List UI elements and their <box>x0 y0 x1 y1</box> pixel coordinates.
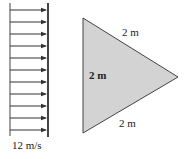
velocity-arrows <box>10 10 46 130</box>
triangle-top-side-label: 2 m <box>122 26 139 38</box>
triangle-left-side-label: 2 m <box>89 69 106 81</box>
velocity-label: 12 m/s <box>12 139 42 151</box>
flow-profile <box>10 3 48 137</box>
triangle-bottom-side-label: 2 m <box>119 117 136 129</box>
